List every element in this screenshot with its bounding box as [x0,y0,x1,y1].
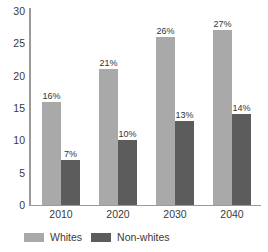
legend-item-non-whites: Non-whites [91,232,170,243]
x-tick-label: 2010 [39,209,83,220]
x-tick-label: 2030 [153,209,197,220]
bar-value-label: 13% [175,111,193,120]
y-axis-tick-labels: 051015202530 [0,0,25,214]
y-tick-label: 5 [3,168,25,179]
bar-whites: 27% [213,30,232,205]
bar-value-label: 21% [99,59,117,68]
legend-label-whites: Whites [50,232,82,243]
y-tick-label: 15 [3,103,25,114]
bar-whites: 21% [99,69,118,205]
y-axis-line [29,8,31,206]
bar-value-label: 27% [213,20,231,29]
y-tick-label: 0 [3,200,25,211]
legend-swatch-non-whites [91,233,111,242]
x-tick-label: 2040 [210,209,254,220]
bar-non-whites: 13% [175,121,194,205]
chart-legend: Whites Non-whites [24,232,170,243]
plot-area: 051015202530 16%7%21%10%26%13%27%14% 201… [0,0,268,214]
legend-label-non-whites: Non-whites [117,232,170,243]
legend-item-whites: Whites [24,232,82,243]
bar-value-label: 7% [64,150,77,159]
bar-non-whites: 7% [61,160,80,205]
x-tick-label: 2020 [96,209,140,220]
bar-non-whites: 14% [232,114,251,205]
bar-value-label: 16% [42,92,60,101]
bar-value-label: 26% [156,27,174,36]
bar-whites: 26% [156,37,175,205]
y-tick-label: 10 [3,135,25,146]
y-tick-label: 25 [3,38,25,49]
legend-swatch-whites [24,233,44,242]
bar-value-label: 10% [118,130,136,139]
bar-chart: 051015202530 16%7%21%10%26%13%27%14% 201… [0,0,268,252]
bar-non-whites: 10% [118,140,137,205]
y-tick-label: 30 [3,6,25,17]
bar-value-label: 14% [232,104,250,113]
bar-whites: 16% [42,102,61,205]
y-tick-label: 20 [3,71,25,82]
